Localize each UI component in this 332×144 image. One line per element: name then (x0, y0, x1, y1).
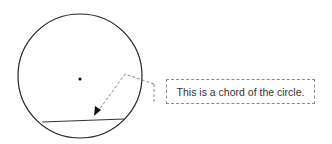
callout-connector (99, 74, 154, 110)
arrowhead-icon (94, 106, 101, 116)
callout-text: This is a chord of the circle. (177, 86, 305, 98)
circle-diagram (0, 0, 332, 144)
chord-line (42, 119, 124, 122)
callout-label-box: This is a chord of the circle. (166, 79, 315, 104)
center-point (78, 77, 81, 80)
diagram-canvas: This is a chord of the circle. (0, 0, 332, 144)
